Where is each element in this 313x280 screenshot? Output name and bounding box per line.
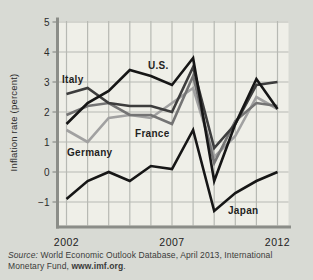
y-axis [56,18,59,229]
source-period: . [123,261,125,271]
inflation-figure: GermanyFranceItalyU.S.Japan543210−120022… [0,0,313,280]
y-tick-label: 1 [44,137,50,148]
source-text-line1: World Economic Outlook Database, April 2… [38,250,272,260]
series-label-germany: Germany [67,147,113,158]
chart-canvas: GermanyFranceItalyU.S.Japan543210−120022… [0,0,313,250]
source-url: www.imf.org [71,261,123,271]
y-tick-label: 4 [44,47,50,58]
y-tick-label: 5 [44,17,50,28]
x-axis [56,226,291,229]
source-label: Source: [8,250,38,260]
source-note: Source: World Economic Outlook Database,… [8,250,310,272]
y-tick-label: 0 [44,167,50,178]
inflation-chart: GermanyFranceItalyU.S.Japan543210−120022… [0,0,313,250]
x-tick-label: 2007 [159,236,184,248]
source-text-line2: Monetary Fund, [8,261,71,271]
y-axis-title: Inflation rate (percent) [8,23,21,223]
y-tick-label: 3 [44,77,50,88]
series-label-france: France [135,128,170,139]
x-tick-label: 2012 [265,236,290,248]
series-label-us: U.S. [148,60,169,71]
x-tick-label: 2002 [54,236,79,248]
y-tick-label: −1 [38,197,50,208]
series-label-italy: Italy [62,74,84,85]
y-tick-label: 2 [44,107,50,118]
series-label-japan: Japan [228,205,258,216]
